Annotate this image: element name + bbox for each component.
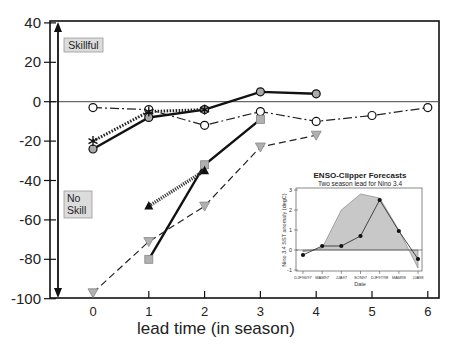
data-point [256,108,264,116]
skill-arrow [54,22,62,298]
inset-point [378,198,382,202]
svg-text:20: 20 [24,53,41,70]
inset-y-label: Nino 3.4 SST anomaly (degC) [281,193,287,266]
svg-text:-20: -20 [19,132,41,149]
arrow-down-icon [54,288,62,298]
data-point [88,289,98,298]
data-point [89,104,97,112]
inset-point [397,229,401,233]
svg-text:2: 2 [289,207,292,213]
data-point [256,115,264,123]
svg-text:No: No [67,192,81,204]
svg-text:6: 6 [424,304,431,319]
svg-text:MAM98: MAM98 [392,275,407,280]
svg-text:3: 3 [257,304,264,319]
svg-text:JJA97: JJA97 [336,275,348,280]
svg-text:JJA98: JJA98 [412,275,424,280]
inset-point [358,234,362,238]
series-grey-square [145,115,265,263]
x-axis-label: lead time (in season) [137,319,295,338]
inset-point [339,244,343,248]
svg-text:40: 40 [24,14,41,31]
inset-subtitle: Two season lead for Nino 3.4 [318,180,403,187]
skill-chart: 40200-20-40-60-80-100 0123456 lead time … [0,0,453,349]
svg-text:-1: -1 [287,267,292,273]
svg-text:1: 1 [145,304,152,319]
svg-text:0: 0 [33,93,41,110]
series-asterisk [89,105,210,147]
svg-text:DJF97/98: DJF97/98 [371,275,389,280]
data-point [201,121,209,129]
svg-text:SON97: SON97 [354,275,368,280]
series-group [88,88,432,298]
svg-text:-80: -80 [19,250,41,267]
svg-text:1: 1 [289,227,292,233]
x-axis: 0123456 [89,291,431,319]
svg-text:-40: -40 [19,172,41,189]
data-point [200,202,210,211]
svg-text:0: 0 [289,247,292,253]
no-skill-label: No Skill [64,191,92,218]
svg-text:MAM97: MAM97 [315,275,330,280]
svg-text:-60: -60 [19,211,41,228]
svg-text:4: 4 [313,304,320,319]
data-point [145,255,153,263]
data-point [424,104,432,112]
inset-point [416,257,420,261]
inset-point [320,244,324,248]
svg-text:3: 3 [289,187,292,193]
svg-text:DJF96/97: DJF96/97 [294,275,312,280]
inset-x-label: Date [354,281,366,287]
data-point [255,143,265,152]
inset-chart: ENSO-Clipper Forecasts Two season lead f… [281,171,424,287]
data-point [312,90,320,98]
plot-frame [50,21,439,298]
data-point [312,117,320,125]
inset-point [301,253,305,257]
series-grey-circle [89,88,320,153]
data-point [89,136,98,146]
skillful-label: Skillful [64,38,103,52]
svg-text:-100: -100 [11,290,41,307]
series-black-triangle [144,166,209,210]
svg-text:Skill: Skill [67,204,86,216]
inset-title: ENSO-Clipper Forecasts [314,171,407,180]
svg-text:2: 2 [201,304,208,319]
data-point [256,88,264,96]
data-point [368,111,376,119]
svg-text:5: 5 [368,304,375,319]
svg-text:0: 0 [89,304,96,319]
data-point [89,145,97,153]
svg-text:Skillful: Skillful [68,39,98,51]
